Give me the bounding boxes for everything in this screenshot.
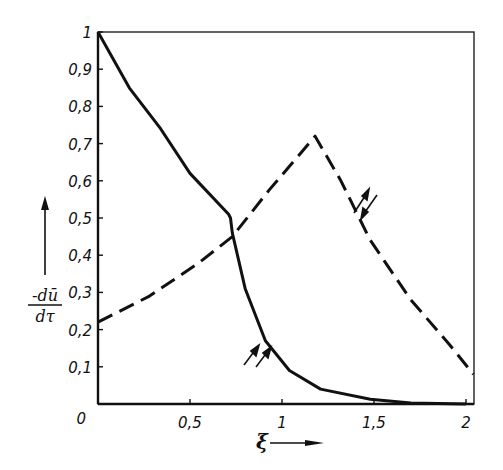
x-tick-label: 0,5: [178, 414, 202, 432]
y-tick-label: 0: [76, 410, 86, 428]
chart: 00,10,20,30,40,50,60,70,80,91 0,511,52 -…: [0, 0, 503, 470]
y-tick-label: 0,7: [68, 136, 92, 154]
y-tick-label: 0,5: [68, 210, 92, 228]
parallel-arrows-annotation: [244, 345, 271, 367]
plot-frame: [98, 32, 474, 404]
y-label-denominator: dτ: [35, 307, 55, 326]
y-tick-label: 1: [82, 24, 92, 42]
up-arrow-head-icon: [41, 196, 49, 210]
y-axis-label: -dū dτ: [28, 196, 62, 326]
right-arrow-head-icon: [305, 440, 324, 446]
y-tick-label: 0,2: [68, 322, 92, 340]
x-tick-label: 2: [461, 414, 471, 432]
x-tick-label: 1,5: [362, 414, 386, 432]
y-tick-label: 0,8: [68, 98, 92, 116]
y-tick-label: 0,1: [68, 359, 92, 377]
x-label-symbol: ξ: [256, 430, 269, 454]
x-axis-label: ξ: [256, 430, 324, 454]
solid-curve: [98, 32, 466, 404]
dashed-curve: [98, 136, 473, 374]
x-tick-label: 1: [277, 414, 287, 432]
y-tick-label: 0,3: [68, 284, 92, 302]
y-tick-label: 0,4: [68, 247, 92, 265]
y-tick-label: 0,6: [68, 173, 92, 191]
y-label-numerator: -dū: [32, 286, 58, 305]
y-tick-label: 0,9: [68, 61, 92, 79]
data-series: [98, 32, 473, 404]
plot-border: [98, 32, 474, 404]
opposed-arrows-annotation: [354, 189, 377, 219]
